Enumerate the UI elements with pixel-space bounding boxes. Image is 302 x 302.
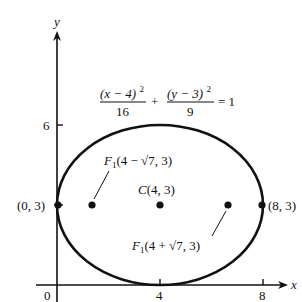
focus-left-leader bbox=[94, 171, 109, 199]
eq-term2-numerator: (y − 3) bbox=[167, 86, 203, 101]
eq-term2-denominator: 9 bbox=[187, 104, 194, 119]
x-axis-label: x bbox=[290, 277, 297, 292]
eq-term1-denominator: 16 bbox=[116, 104, 130, 119]
vertex-right-label: (8, 3) bbox=[268, 198, 296, 213]
focus-right-leader bbox=[212, 211, 226, 236]
vertex-left-label: (0, 3) bbox=[17, 198, 45, 213]
eq-plus: + bbox=[151, 94, 158, 109]
svg-text:(y − 3) 2: (y − 3) 2 bbox=[167, 84, 211, 101]
y-axis-label: y bbox=[52, 14, 60, 29]
y-tick-label-6: 6 bbox=[43, 118, 50, 133]
vertex-right-point bbox=[258, 201, 265, 208]
focus-right-label: F1(4 + √7, 3) bbox=[131, 238, 200, 255]
eq-equals: = 1 bbox=[218, 94, 235, 109]
ellipse-equation: (x − 4) 2 16 + (y − 3) 2 9 = 1 bbox=[100, 84, 235, 119]
eq-term2-exponent: 2 bbox=[206, 84, 211, 94]
x-axis: x 0 4 8 bbox=[36, 277, 297, 302]
focus-left-point bbox=[88, 201, 95, 208]
x-tick-label-4: 4 bbox=[156, 288, 163, 302]
svg-text:(x − 4) 2: (x − 4) 2 bbox=[100, 84, 144, 101]
focus-right-point bbox=[224, 201, 231, 208]
eq-term1-numerator: (x − 4) bbox=[100, 86, 136, 101]
center-point bbox=[156, 201, 163, 208]
x-tick-label-8: 8 bbox=[259, 288, 266, 302]
focus-left-label: F1(4 − √7, 3) bbox=[103, 153, 172, 170]
origin-label: 0 bbox=[44, 288, 51, 302]
eq-term1-exponent: 2 bbox=[139, 84, 144, 94]
y-axis: y 6 bbox=[43, 14, 63, 302]
center-label: C(4, 3) bbox=[138, 182, 175, 197]
part-label-fragment: ) bbox=[0, 0, 1, 26]
ellipse-diagram: ) y 6 x 0 4 8 (x − 4) 2 bbox=[0, 0, 302, 302]
